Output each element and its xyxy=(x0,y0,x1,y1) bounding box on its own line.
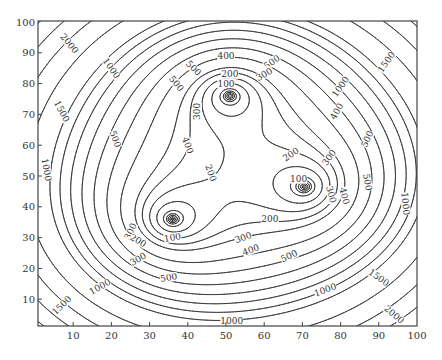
y-tick-label: 60 xyxy=(22,140,35,151)
contour-level-600 xyxy=(94,39,384,285)
contour-level-15 xyxy=(172,187,305,220)
x-tick-label: 10 xyxy=(67,330,80,341)
x-tick-label: 30 xyxy=(143,330,156,341)
y-tick-label: 80 xyxy=(22,78,35,89)
contour-label: 300 xyxy=(192,102,202,119)
contour-label: 1500 xyxy=(376,50,397,75)
contour-label: 500 xyxy=(361,173,374,192)
contour-label: 1000 xyxy=(220,316,243,326)
contour-label: 400 xyxy=(241,242,261,257)
x-axis: 102030405060708090100 xyxy=(67,322,427,341)
y-tick-label: 50 xyxy=(22,171,35,182)
contour-label: 400 xyxy=(328,101,345,121)
plot-frame xyxy=(38,21,417,326)
y-tick-label: 70 xyxy=(22,109,35,120)
x-tick-label: 50 xyxy=(220,330,233,341)
contour-label: 300 xyxy=(233,230,253,245)
x-tick-label: 40 xyxy=(181,330,194,341)
x-tick-label: 20 xyxy=(105,330,118,341)
contour-label: 1500 xyxy=(50,294,73,317)
contour-label: 400 xyxy=(337,186,351,205)
x-tick-label: 100 xyxy=(407,330,426,341)
contour-label: 400 xyxy=(217,51,234,61)
contour-chart: 2000150010005004003005004005003002001002… xyxy=(0,0,442,360)
y-tick-label: 30 xyxy=(22,232,35,243)
contour-label: 200 xyxy=(128,232,148,249)
x-tick-label: 60 xyxy=(258,330,271,341)
contour-level-700 xyxy=(82,30,395,294)
contour-label: 2000 xyxy=(58,32,81,56)
y-tick-label: 100 xyxy=(16,17,35,28)
contour-label: 500 xyxy=(279,248,299,264)
y-tick-label: 20 xyxy=(22,263,35,274)
x-tick-label: 90 xyxy=(372,330,385,341)
contour-level-200 xyxy=(150,78,330,238)
contour-label: 300 xyxy=(324,185,338,204)
contour-label: 1000 xyxy=(330,74,351,99)
contour-level-150 xyxy=(157,84,322,232)
x-tick-label: 70 xyxy=(296,330,309,341)
contour-label: 100 xyxy=(290,174,307,184)
contour-label: 1500 xyxy=(367,267,392,288)
contour-label: 2000 xyxy=(382,303,406,326)
contour-label: 1000 xyxy=(88,277,113,297)
contour-label: 400 xyxy=(180,135,195,155)
contour-label: 1000 xyxy=(40,158,54,183)
contour-label: 100 xyxy=(163,231,182,244)
y-tick-label: 90 xyxy=(22,47,35,58)
x-tick-label: 80 xyxy=(334,330,347,341)
contour-label: 500 xyxy=(167,74,186,94)
contour-label: 200 xyxy=(261,214,278,224)
contour-label: 300 xyxy=(320,147,338,167)
contour-label: 1000 xyxy=(400,192,412,216)
contour-label: 500 xyxy=(359,129,375,149)
contour-label: 100 xyxy=(217,79,234,89)
contour-level-900 xyxy=(60,16,416,313)
contour-label: 500 xyxy=(108,129,123,149)
contour-label: 500 xyxy=(184,59,203,78)
y-tick-label: 10 xyxy=(22,294,35,305)
y-tick-label: 40 xyxy=(22,201,35,212)
contour-level-2250 xyxy=(27,331,33,336)
